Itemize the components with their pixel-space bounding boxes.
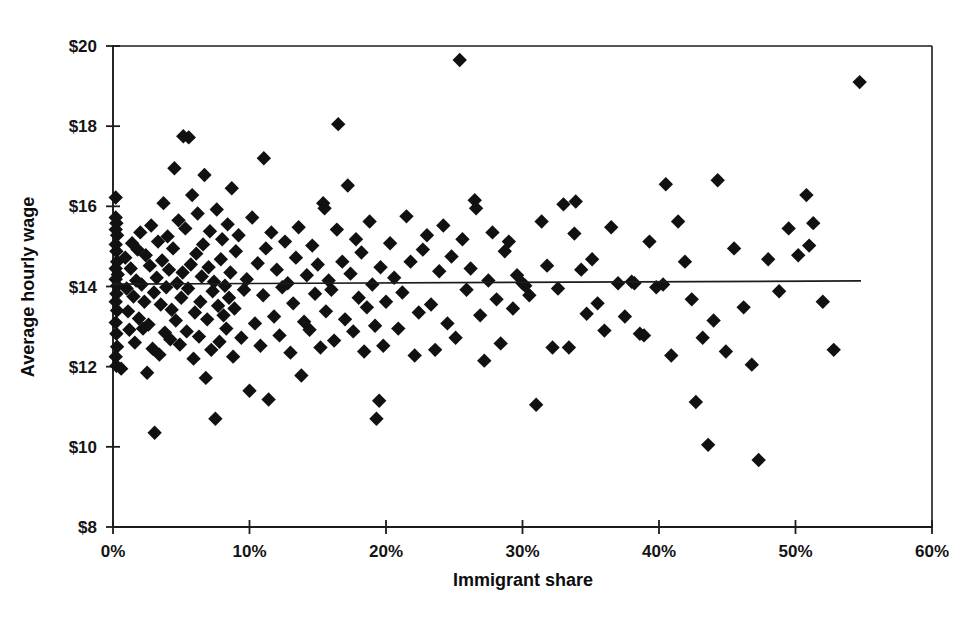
data-point <box>540 258 554 272</box>
data-point <box>852 75 866 89</box>
data-point <box>264 225 278 239</box>
data-point <box>199 371 213 385</box>
data-point <box>727 241 741 255</box>
data-point <box>219 321 233 335</box>
data-point <box>562 340 576 354</box>
x-tick-label: 30% <box>505 542 539 561</box>
data-point <box>436 218 450 232</box>
data-point <box>214 252 228 266</box>
data-point <box>245 210 259 224</box>
data-point <box>706 313 720 327</box>
data-point <box>231 228 245 242</box>
data-point <box>210 202 224 216</box>
data-point <box>463 261 477 275</box>
data-point <box>424 297 438 311</box>
data-point <box>267 309 281 323</box>
data-point <box>604 220 618 234</box>
data-point <box>305 238 319 252</box>
data-point <box>259 241 273 255</box>
data-point <box>403 254 417 268</box>
data-point <box>229 244 243 258</box>
data-point <box>190 206 204 220</box>
data-point <box>360 300 374 314</box>
data-point <box>313 340 327 354</box>
data-point <box>567 226 581 240</box>
data-point <box>642 234 656 248</box>
y-tick-label: $20 <box>69 37 97 56</box>
data-point <box>689 395 703 409</box>
data-point <box>256 288 270 302</box>
data-point <box>395 285 409 299</box>
data-point <box>685 292 699 306</box>
data-point <box>420 228 434 242</box>
data-point <box>149 270 163 284</box>
data-point <box>330 222 344 236</box>
data-point <box>611 276 625 290</box>
x-tick-label: 40% <box>642 542 676 561</box>
data-point <box>534 214 548 228</box>
data-point <box>203 224 217 238</box>
data-point <box>432 264 446 278</box>
data-point <box>197 168 211 182</box>
data-point <box>248 316 262 330</box>
data-point <box>453 53 467 67</box>
data-point <box>225 181 239 195</box>
data-point <box>289 250 303 264</box>
x-axis-title: Immigrant share <box>453 570 593 590</box>
data-point <box>185 188 199 202</box>
data-point <box>362 214 376 228</box>
data-point <box>250 256 264 270</box>
data-point <box>493 336 507 350</box>
data-point <box>140 365 154 379</box>
data-point <box>719 344 733 358</box>
data-point <box>180 324 194 338</box>
data-point <box>311 257 325 271</box>
data-point <box>772 284 786 298</box>
data-point <box>671 214 685 228</box>
data-point <box>745 357 759 371</box>
data-point <box>455 232 469 246</box>
y-tick-label: $12 <box>69 358 97 377</box>
data-point <box>506 301 520 315</box>
data-point <box>485 225 499 239</box>
data-point <box>569 194 583 208</box>
data-point <box>166 241 180 255</box>
x-tick-label: 60% <box>915 542 949 561</box>
y-tick-label: $14 <box>69 278 98 297</box>
data-point <box>167 161 181 175</box>
x-tick-label: 0% <box>101 542 126 561</box>
data-point <box>365 277 379 291</box>
data-point <box>349 232 363 246</box>
data-point <box>121 304 135 318</box>
data-point <box>659 177 673 191</box>
axis-ticks <box>106 46 932 534</box>
data-point <box>481 273 495 287</box>
data-point <box>545 340 559 354</box>
data-point <box>372 394 386 408</box>
data-point <box>354 245 368 259</box>
data-point <box>278 234 292 248</box>
data-point <box>156 196 170 210</box>
data-point <box>357 344 371 358</box>
data-point <box>335 254 349 268</box>
data-point <box>300 268 314 282</box>
data-point <box>192 329 206 343</box>
data-point <box>234 331 248 345</box>
data-point <box>618 309 632 323</box>
data-point <box>352 291 366 305</box>
x-tick-label: 50% <box>778 542 812 561</box>
data-point <box>109 327 123 341</box>
data-point <box>391 321 405 335</box>
data-point <box>448 331 462 345</box>
data-point-markers <box>109 53 867 467</box>
data-point <box>407 348 421 362</box>
chart-canvas: $8$10$12$14$16$18$200%10%20%30%40%50%60%… <box>0 0 980 618</box>
data-point <box>368 319 382 333</box>
data-point <box>272 328 286 342</box>
data-point <box>261 392 275 406</box>
data-point <box>664 348 678 362</box>
x-tick-label: 20% <box>369 542 403 561</box>
data-point <box>122 323 136 337</box>
data-point <box>416 242 430 256</box>
data-point <box>477 353 491 367</box>
